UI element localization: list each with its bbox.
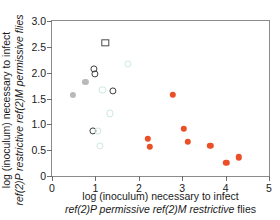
data-point-grey-strains	[82, 79, 88, 85]
x-axis-title-line2-tail: flies	[234, 203, 256, 215]
x-tick	[269, 176, 270, 181]
x-axis-title-line1: log (inoculum) necessary to infect	[51, 190, 270, 203]
y-tick-label: 0.5	[31, 145, 46, 156]
x-axis-title-line2: ref(2)P permissive ref(2)M restrictive f…	[51, 203, 270, 216]
y-tick-label: 1.5	[31, 93, 46, 104]
x-axis-title: log (inoculum) necessary to infect ref(2…	[51, 190, 270, 215]
x-tick	[139, 176, 140, 181]
y-axis-title-line2: ref(2)P restrictive ref(2)M permissive f…	[13, 0, 26, 220]
y-tick-label: 3.0	[31, 16, 46, 27]
x-tick	[95, 176, 96, 181]
y-tick	[47, 21, 52, 22]
y-tick	[47, 73, 52, 74]
data-point-outlier-strain	[102, 39, 109, 46]
data-point-faint-strains	[94, 127, 101, 134]
data-point-faint-strains	[96, 142, 103, 149]
data-point-grey-strains	[70, 92, 76, 98]
data-point-restrictive-strains	[223, 160, 229, 166]
y-tick	[47, 47, 52, 48]
x-tick	[52, 176, 53, 181]
data-point-restrictive-strains	[236, 154, 242, 160]
plot-area: 00.51.01.52.02.53.0012345	[51, 20, 270, 177]
data-point-restrictive-strains	[180, 126, 186, 132]
x-tick	[226, 176, 227, 181]
data-point-restrictive-strains	[145, 136, 151, 142]
y-tick	[47, 124, 52, 125]
data-point-faint-strains	[99, 87, 106, 94]
data-point-restrictive-strains	[185, 139, 191, 145]
data-point-faint-strains	[124, 60, 131, 67]
y-axis-title: log (inoculum) necessary to infect ref(2…	[0, 0, 26, 220]
y-tick-label: 2.0	[31, 67, 46, 78]
data-point-restrictive-strains	[169, 92, 175, 98]
y-tick	[47, 150, 52, 151]
x-axis-title-line2-italic: ref(2)P permissive ref(2)M restrictive	[65, 203, 234, 215]
data-point-restrictive-strains	[207, 143, 213, 149]
x-tick	[182, 176, 183, 181]
data-point-permissive-strains	[109, 87, 116, 94]
data-point-faint-strains	[106, 110, 113, 117]
y-axis-title-line1: log (inoculum) necessary to infect	[0, 0, 13, 220]
y-tick-label: 2.5	[31, 42, 46, 53]
data-point-restrictive-strains	[147, 144, 153, 150]
scatter-chart-figure: log (inoculum) necessary to infect ref(2…	[0, 0, 280, 220]
y-tick-label: 1.0	[31, 119, 46, 130]
y-tick	[47, 99, 52, 100]
data-point-permissive-strains	[91, 70, 98, 77]
y-tick-label: 0	[40, 171, 46, 182]
